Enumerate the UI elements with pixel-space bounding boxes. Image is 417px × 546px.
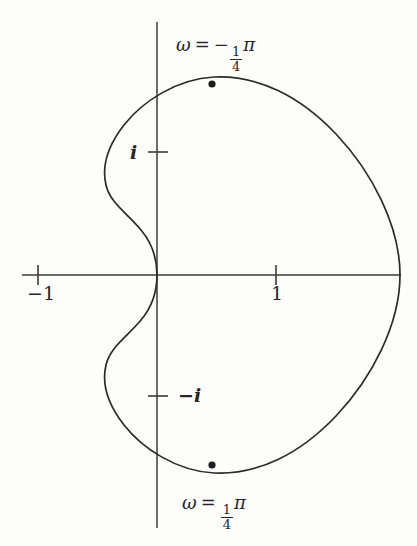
equals-sign-bottom: = <box>201 492 216 513</box>
tick-label-pos-1: 1 <box>271 284 283 303</box>
marker-omega-pos-quarter-pi <box>208 461 215 468</box>
marker-omega-neg-quarter-pi <box>208 80 215 87</box>
omega-symbol-bottom: ω <box>182 492 197 513</box>
fraction-numerator-bottom: 1 <box>221 503 233 518</box>
annotation-omega-top: ω=− 1 4 π <box>176 36 255 74</box>
pi-symbol-top: π <box>243 34 255 55</box>
fraction-numerator-top: 1 <box>230 45 242 60</box>
minus-sign-top: − <box>214 34 229 55</box>
fraction-denominator-bottom: 4 <box>221 518 233 532</box>
figure-container: ω=− 1 4 π ω= 1 4 π −1 1 i −i <box>0 0 417 546</box>
plot-canvas <box>0 0 417 546</box>
pi-symbol-bottom: π <box>234 492 246 513</box>
tick-label-neg-i: −i <box>178 386 201 405</box>
omega-symbol-top: ω <box>176 34 191 55</box>
fraction-one-quarter-top: 1 4 <box>230 45 242 73</box>
curve-upper-lobe <box>105 77 400 275</box>
equals-sign-top: = <box>195 34 210 55</box>
annotation-omega-bottom: ω= 1 4 π <box>182 494 246 532</box>
curve-lower-lobe <box>105 275 400 473</box>
tick-label-neg-1: −1 <box>27 284 55 303</box>
tick-label-i: i <box>130 143 137 162</box>
fraction-denominator-top: 4 <box>230 60 242 74</box>
fraction-one-quarter-bottom: 1 4 <box>221 503 233 531</box>
